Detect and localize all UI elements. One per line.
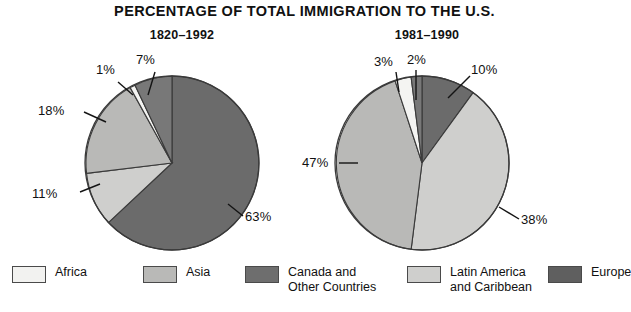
right-pie-outline (335, 76, 509, 250)
legend-swatch-europe (548, 266, 582, 283)
legend-item-europe: Europe (548, 265, 631, 283)
legend-item-africa: Africa (12, 265, 87, 283)
slice-right-africa (395, 77, 422, 163)
legend-item-asia: Asia (143, 265, 210, 283)
legend-label-africa: Africa (55, 265, 87, 280)
legend-label-canada-and-other-countries: Canada and Other Countries (288, 265, 376, 294)
pct-label-right-latin-america: 38% (521, 212, 547, 227)
left-leader-lines (80, 72, 243, 216)
pct-label-right-africa: 3% (374, 54, 393, 69)
slice-right-europe (422, 76, 473, 163)
slice-right-canada (411, 76, 422, 163)
pct-label-left-africa: 1% (96, 62, 115, 77)
legend-swatch-asia (143, 266, 177, 283)
legend-swatch-latin-america-and-caribbean (407, 266, 441, 283)
pct-label-right-canada: 2% (407, 52, 426, 67)
pct-label-right-europe: 10% (471, 62, 497, 77)
slice-right-latin-america (411, 93, 509, 250)
legend-swatch-africa (12, 266, 46, 283)
slice-left-europe (108, 76, 258, 250)
pct-label-left-canada: 7% (136, 52, 155, 67)
legend-label-asia: Asia (186, 265, 210, 280)
panel-title-1981-1990: 1981–1990 (337, 28, 517, 42)
slice-left-asia (86, 88, 172, 174)
panel-title-1820-1992: 1820–1992 (92, 28, 272, 42)
pct-label-right-asia: 47% (302, 155, 328, 170)
legend-item-canada-and-other-countries: Canada and Other Countries (245, 265, 376, 294)
legend-item-latin-america-and-caribbean: Latin America and Caribbean (407, 265, 532, 294)
legend-label-latin-america-and-caribbean: Latin America and Caribbean (450, 265, 532, 294)
pct-label-left-asia: 18% (38, 103, 64, 118)
slice-left-latin-america (87, 163, 172, 223)
legend-swatch-canada-and-other-countries (245, 266, 279, 283)
left-pie-outline (85, 76, 259, 250)
slice-left-africa (130, 85, 172, 163)
slice-left-canada (135, 76, 172, 163)
pct-label-left-latin-america: 11% (32, 186, 57, 201)
slice-right-asia (336, 81, 422, 249)
pct-label-left-europe: 63% (245, 209, 271, 224)
chart-legend: Africa Asia Canada and Other Countries L… (0, 265, 609, 312)
legend-label-europe: Europe (591, 265, 631, 280)
right-leader-lines (339, 70, 519, 219)
page-title: PERCENTAGE OF TOTAL IMMIGRATION TO THE U… (0, 3, 609, 19)
